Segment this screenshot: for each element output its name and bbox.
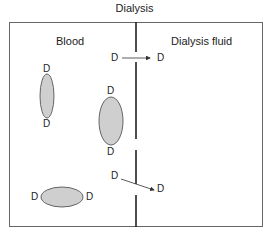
molecule-d-bottom-right: D	[157, 184, 164, 194]
molecule-d-horizontal-right: D	[86, 192, 93, 202]
vertical-molecule-large	[99, 97, 123, 145]
dialysis-fluid-label: Dialysis fluid	[171, 36, 232, 46]
molecule-d-bottom-left: D	[111, 171, 118, 181]
molecule-d-small-top: D	[43, 64, 50, 74]
molecule-d-top-right: D	[157, 53, 164, 63]
molecule-d-large-top: D	[107, 86, 114, 96]
horizontal-molecule	[41, 187, 83, 207]
blood-label: Blood	[56, 36, 84, 46]
molecule-d-small-bottom: D	[43, 119, 50, 129]
vertical-molecule-small	[40, 74, 54, 118]
molecule-d-top-left: D	[111, 53, 118, 63]
diffusion-arrow-bottom	[121, 179, 154, 190]
molecule-d-horizontal-left: D	[31, 192, 38, 202]
molecule-d-large-bottom: D	[107, 147, 114, 157]
